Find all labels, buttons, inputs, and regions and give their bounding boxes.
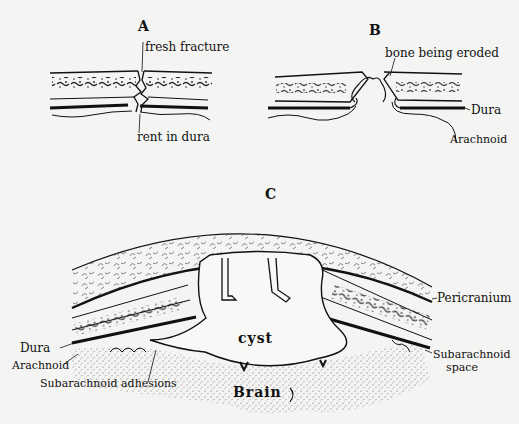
label-subarachnoid-adhesions: Subarachnoid adhesions — [40, 378, 177, 389]
label-arachnoid-c: Arachnoid — [12, 360, 69, 371]
panel-a-letter: A — [138, 18, 149, 34]
label-arachnoid-b: Arachnoid — [450, 134, 507, 145]
label-subarachnoid-space-line1: Subarachnoid — [433, 349, 511, 360]
label-brain: Brain — [233, 385, 282, 399]
label-rent-in-dura: rent in dura — [137, 131, 210, 143]
label-fresh-fracture: fresh fracture — [145, 41, 229, 53]
label-dura-c: Dura — [20, 342, 50, 354]
panel-a-drawing — [50, 42, 212, 133]
label-dura-b: Dura — [471, 104, 501, 116]
panel-b-drawing — [268, 58, 470, 142]
label-cyst: cyst — [238, 331, 273, 345]
label-pericranium: Pericranium — [437, 292, 512, 304]
label-bone-being-eroded: bone being eroded — [385, 47, 499, 59]
label-subarachnoid-space-line2: space — [446, 362, 478, 373]
panel-b-letter: B — [369, 22, 381, 38]
panel-c-letter: C — [265, 186, 276, 202]
